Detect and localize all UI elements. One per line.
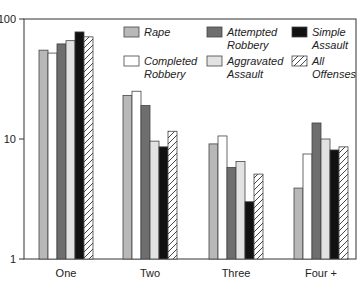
bar <box>141 106 150 259</box>
x-category-label: Two <box>140 267 160 279</box>
bar <box>218 136 227 259</box>
legend-label: Simple <box>312 26 346 38</box>
legend-label: Offenses <box>312 68 357 80</box>
bar <box>132 91 141 259</box>
bar <box>159 147 168 259</box>
y-tick-label: 10 <box>4 133 16 145</box>
bar <box>209 144 218 259</box>
y-axis: 110100 <box>0 13 24 265</box>
legend-label: Robbery <box>144 68 187 80</box>
bar-group <box>209 136 263 259</box>
bar <box>39 50 48 259</box>
bar <box>57 44 66 259</box>
bar <box>312 123 321 259</box>
legend-label: Completed <box>144 55 198 67</box>
x-axis: OneTwoThreeFour + <box>56 267 337 279</box>
bar-chart: 110100 OneTwoThreeFour + RapeCompletedRo… <box>0 0 360 285</box>
bar-group <box>39 32 93 259</box>
y-tick-label: 1 <box>10 253 16 265</box>
bar <box>339 147 348 259</box>
legend-swatch <box>207 56 222 66</box>
bar <box>84 37 93 259</box>
bar <box>330 150 339 259</box>
legend-label: Attempted <box>226 26 278 38</box>
bar <box>236 161 245 259</box>
legend-item: CompletedRobbery <box>124 55 198 80</box>
bar <box>66 41 75 259</box>
bar <box>227 167 236 259</box>
bar-group <box>123 91 177 259</box>
legend-item: AggravatedAssault <box>207 55 284 80</box>
bar <box>294 188 303 259</box>
bar <box>245 202 254 259</box>
bar <box>303 154 312 259</box>
bar <box>150 141 159 259</box>
legend-label: Assault <box>226 68 264 80</box>
legend-swatch <box>292 27 307 37</box>
legend-item: SimpleAssault <box>292 26 349 51</box>
legend-label: Assault <box>311 39 349 51</box>
legend-label: Robbery <box>227 39 270 51</box>
legend-label: Rape <box>144 26 170 38</box>
legend: RapeCompletedRobberyAttemptedRobberyAggr… <box>124 26 357 80</box>
x-category-label: One <box>56 267 77 279</box>
bar <box>321 139 330 259</box>
legend-label: Aggravated <box>226 55 284 67</box>
y-tick-label: 100 <box>0 13 16 25</box>
legend-swatch <box>124 56 139 66</box>
legend-swatch <box>207 27 222 37</box>
x-category-label: Three <box>222 267 251 279</box>
legend-item: Rape <box>124 26 170 38</box>
legend-swatch <box>292 56 307 66</box>
x-category-label: Four + <box>305 267 337 279</box>
legend-item: AttemptedRobbery <box>207 26 278 51</box>
bar <box>168 131 177 259</box>
legend-swatch <box>124 27 139 37</box>
legend-label: All <box>311 55 325 67</box>
bar <box>254 174 263 259</box>
bar <box>48 53 57 259</box>
bar <box>75 32 84 259</box>
bar <box>123 96 132 259</box>
legend-item: AllOffenses <box>292 55 357 80</box>
bar-group <box>294 123 348 259</box>
